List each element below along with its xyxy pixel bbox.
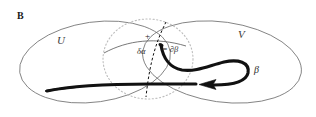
panel-label-b: B: [17, 11, 24, 21]
delta-alpha-label: δα: [137, 47, 145, 56]
boundary-expression-label: = ∂β: [162, 45, 178, 54]
set-label-v: V: [238, 29, 245, 40]
figure-panel-b: B U V + δα = ∂β β: [0, 0, 316, 117]
diagram-canvas: [0, 0, 316, 117]
curve-beta-label: β: [254, 65, 259, 75]
marked-point-plus: +: [145, 32, 150, 41]
set-label-u: U: [57, 35, 65, 46]
set-region-u-outline: [14, 12, 176, 112]
